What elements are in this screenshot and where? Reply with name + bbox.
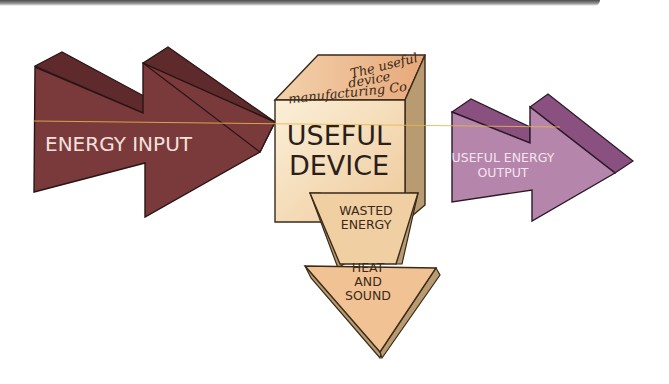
wasted-energy-label-2: ENERGY bbox=[341, 217, 392, 232]
wasted-energy-label-1: WASTED bbox=[339, 203, 392, 218]
energy-input-arrow: ENERGY INPUT bbox=[34, 47, 275, 217]
output-label-line1: USEFUL ENERGY bbox=[452, 150, 555, 165]
energy-input-label: ENERGY INPUT bbox=[45, 132, 193, 156]
heat-sound-label-1: HEAT bbox=[352, 260, 385, 275]
useful-energy-output-arrow: USEFUL ENERGY OUTPUT bbox=[452, 94, 633, 221]
heat-sound-label-3: SOUND bbox=[345, 288, 391, 303]
heat-sound-label-2: AND bbox=[354, 274, 382, 289]
energy-diagram: ENERGY INPUT The useful device manufactu… bbox=[0, 0, 669, 384]
output-label-line2: OUTPUT bbox=[478, 165, 529, 180]
device-label-line2: DEVICE bbox=[289, 150, 389, 181]
wasted-energy-arrow: WASTED ENERGY HEAT AND SOUND bbox=[305, 193, 440, 358]
